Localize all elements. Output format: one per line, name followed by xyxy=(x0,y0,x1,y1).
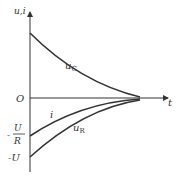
svg-text:-: - xyxy=(7,130,10,140)
curve-i-label: i xyxy=(50,109,53,120)
origin-label: O xyxy=(16,93,24,104)
curve-ur-label: uR xyxy=(73,122,85,135)
x-axis-label: t xyxy=(168,97,173,108)
tick-minus-u-over-r: - U R xyxy=(7,123,25,146)
y-axis-label: u,i xyxy=(14,6,26,16)
curve-uc-label: uC xyxy=(65,60,77,73)
svg-text:R: R xyxy=(13,136,21,146)
tick-minus-u: -U xyxy=(8,152,20,163)
curve-uc xyxy=(30,33,140,97)
svg-text:U: U xyxy=(14,123,22,133)
rc-transient-diagram: u,i t O uC i uR - U R -U xyxy=(0,0,183,178)
